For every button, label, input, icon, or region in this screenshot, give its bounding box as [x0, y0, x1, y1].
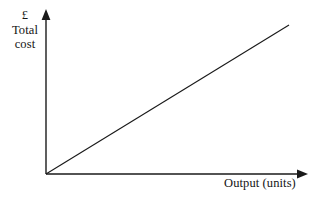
- y-axis-label-line-cost: cost: [8, 37, 42, 52]
- chart-plot-area: [0, 0, 320, 203]
- x-axis-arrowhead: [297, 170, 308, 179]
- total-cost-line: [46, 25, 289, 174]
- x-axis-label: Output (units): [224, 176, 296, 190]
- y-axis-label: £ Total cost: [8, 8, 42, 52]
- y-axis-arrowhead: [42, 9, 51, 20]
- y-axis-label-currency: £: [8, 8, 42, 23]
- y-axis-label-line-total: Total: [8, 23, 42, 38]
- total-cost-chart: £ Total cost Output (units): [0, 0, 320, 203]
